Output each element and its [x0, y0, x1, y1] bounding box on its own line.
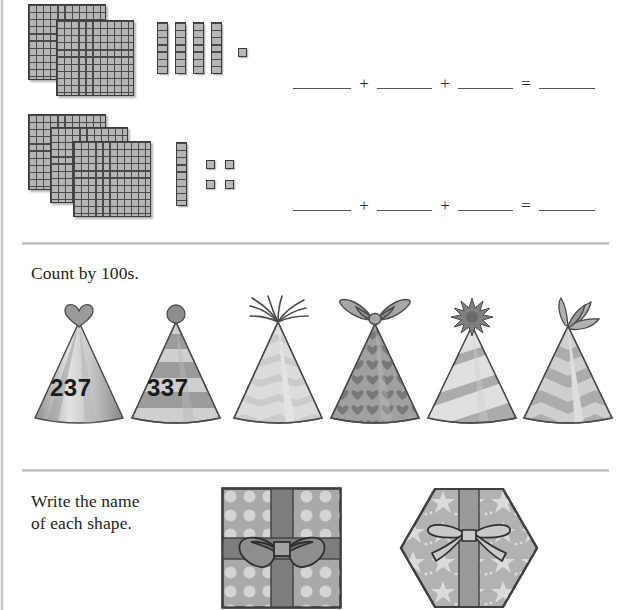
- plus-sign: +: [432, 196, 458, 216]
- equation-blank-total[interactable]: [539, 197, 595, 211]
- square-gift-box: [221, 487, 343, 610]
- party-hat-6: [521, 298, 617, 430]
- equation-blank-ones[interactable]: [458, 197, 513, 211]
- tens-rod: [176, 142, 187, 206]
- ones-unit: [225, 180, 234, 189]
- equation-blank-tens[interactable]: [377, 75, 432, 89]
- gift-ribbon-vertical: [459, 487, 479, 610]
- equation-blank-tens[interactable]: [377, 197, 432, 211]
- equation-row-2: + + =: [293, 196, 595, 216]
- ones-unit: [206, 160, 215, 169]
- plus-sign: +: [432, 74, 458, 94]
- base-ten-row-1: [0, 0, 280, 100]
- hundreds-flat: [73, 141, 151, 217]
- count-by-100s-instruction: Count by 100s.: [31, 262, 139, 284]
- equals-sign: =: [513, 74, 539, 94]
- equation-blank-hundreds[interactable]: [293, 75, 351, 89]
- hexagon-gift-box: [398, 487, 540, 610]
- section-divider-1: [22, 242, 609, 245]
- party-hat-4: [320, 298, 430, 430]
- tassel-topper-icon: [250, 296, 308, 322]
- starburst-topper-icon: [451, 298, 493, 336]
- equation-blank-total[interactable]: [539, 75, 595, 89]
- name-the-shape-instruction-line-1: Write the name: [31, 490, 140, 512]
- section-divider-2: [22, 469, 609, 472]
- equation-blank-ones[interactable]: [458, 75, 513, 89]
- party-hat-2: 337: [124, 300, 229, 430]
- party-hat-2-number: 337: [147, 374, 189, 402]
- party-hat-3: [226, 296, 331, 430]
- tens-rod: [211, 22, 222, 74]
- tens-rod: [157, 22, 168, 74]
- heart-topper-icon: [65, 305, 93, 327]
- hundreds-flat: [56, 20, 134, 96]
- ones-unit: [238, 48, 247, 57]
- bow-topper-icon: [340, 299, 411, 324]
- equation-row-1: + + =: [293, 74, 595, 94]
- ribbon-topper-icon: [559, 298, 599, 330]
- equation-blank-hundreds[interactable]: [293, 197, 351, 211]
- plus-sign: +: [351, 74, 377, 94]
- party-hat-1-number: 237: [50, 374, 92, 402]
- base-ten-row-2: [0, 110, 280, 220]
- ones-unit: [206, 180, 215, 189]
- party-hat-5: [420, 298, 525, 430]
- tens-rod: [193, 22, 204, 74]
- name-the-shape-instruction-line-2: of each shape.: [31, 512, 132, 534]
- tens-rod: [175, 22, 186, 74]
- equals-sign: =: [513, 196, 539, 216]
- plus-sign: +: [351, 196, 377, 216]
- ones-unit: [225, 160, 234, 169]
- party-hat-1: 237: [27, 300, 132, 430]
- pompom-topper-icon: [167, 305, 185, 323]
